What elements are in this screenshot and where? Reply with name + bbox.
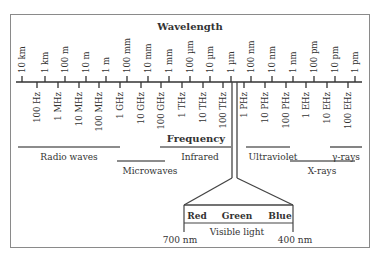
wavelength-tick-label: 100 pm [309, 41, 319, 73]
visible-400nm-label: 400 nm [278, 235, 313, 245]
frequency-tick-label: 100 EHz [343, 91, 353, 129]
wavelength-tick-label: 10 mm [143, 43, 153, 73]
wavelength-tick-label: 100 m [60, 46, 70, 73]
frequency-title: Frequency [167, 133, 227, 144]
frequency-tick-label: 10 PHz [260, 91, 270, 123]
wavelength-tick-label: 10 pm [330, 46, 340, 73]
frequency-tick-label: 1 THz [177, 91, 187, 117]
wavelength-tick-label: 1 km [40, 52, 50, 73]
frequency-tick-label: 10 MHz [74, 91, 84, 126]
visible-red-label: Red [187, 211, 207, 221]
em-spectrum-diagram: Wavelength 10 km1 km100 m10 m1 m100 mm10… [0, 0, 381, 260]
wavelength-tick-label: 100 µm [185, 40, 195, 73]
band-label: X-rays [308, 166, 337, 176]
frequency-tick-label: 10 EHz [322, 91, 332, 123]
visible-700nm-label: 700 nm [163, 235, 198, 245]
wavelength-tick-label: 10 µm [205, 46, 215, 73]
band-label: Radio waves [40, 152, 98, 162]
frequency-tick-label: 1 MHz [53, 91, 63, 120]
visible-fan-left [184, 178, 232, 205]
wavelength-tick-label: 10 nm [267, 46, 277, 73]
wavelength-tick-label: 1 nm [288, 51, 298, 73]
frequency-tick-label: 100 Hz [32, 91, 42, 122]
wavelength-tick-label: 1 mm [164, 49, 174, 73]
frequency-tick-label: 100 MHz [94, 91, 104, 131]
wavelength-tick-label: 100 nm [246, 41, 256, 73]
wavelength-tick-label: 1 pm [350, 51, 360, 73]
frequency-tick-label: 100 GHz [156, 91, 166, 129]
wavelength-ticks: 10 km1 km100 m10 m1 m100 mm10 mm1 mm100 … [17, 38, 360, 82]
wavelength-tick-label: 10 m [81, 51, 91, 73]
wavelength-tick-label: 1 µm [226, 51, 236, 73]
band-label: Infrared [181, 152, 219, 162]
visible-blue-label: Blue [268, 211, 292, 221]
band-label: γ-rays [332, 152, 360, 162]
frequency-tick-label: 1 PHz [239, 91, 249, 117]
frequency-tick-label: 100 THz [218, 91, 228, 128]
frequency-tick-label: 1 EHz [301, 91, 311, 118]
wavelength-tick-label: 1 m [101, 57, 111, 73]
frequency-tick-label: 10 GHz [136, 91, 146, 124]
visible-fan-right [237, 178, 293, 205]
frequency-tick-label: 10 THz [198, 91, 208, 123]
visible-green-label: Green [222, 211, 253, 221]
wavelength-title: Wavelength [156, 21, 223, 32]
frequency-ticks: 100 Hz1 MHz10 MHz100 MHz1 GHz10 GHz100 G… [32, 82, 353, 132]
visible-light-label: Visible light [209, 227, 265, 237]
band-label: Microwaves [123, 166, 178, 176]
frequency-tick-label: 100 PHz [281, 91, 291, 128]
wavelength-tick-label: 100 mm [122, 38, 132, 73]
frequency-tick-label: 1 GHz [115, 91, 125, 118]
spectrum-bands: Radio wavesMicrowavesInfraredUltraviolet… [18, 147, 362, 176]
wavelength-tick-label: 10 km [17, 46, 27, 73]
